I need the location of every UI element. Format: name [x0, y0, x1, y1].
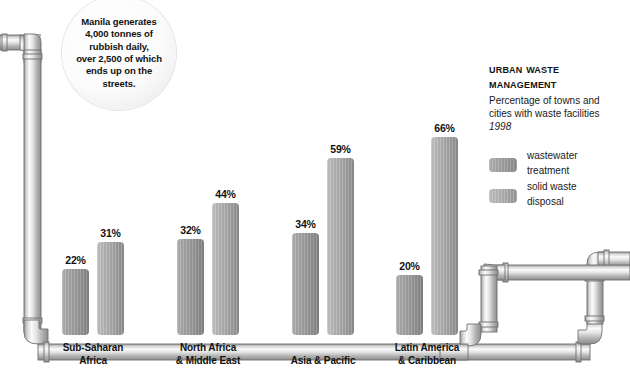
bar-fill	[292, 233, 319, 335]
legend-item-wastewater-treatment: wastewater treatment	[489, 149, 625, 178]
bar-value: 34%	[288, 218, 323, 230]
bar-fill	[62, 269, 89, 335]
legend-label: wastewater treatment	[527, 149, 578, 178]
bar-solid-waste: 66%	[431, 137, 458, 335]
legend-item-solid-waste-disposal: solid waste disposal	[489, 180, 625, 209]
legend-panel: Urban Waste Management Percentage of tow…	[489, 62, 625, 211]
bar-value: 66%	[427, 122, 462, 134]
bar-value: 32%	[173, 224, 208, 236]
group-label: Latin America & Caribbean	[352, 342, 502, 367]
bar-wastewater: 20%	[396, 275, 423, 335]
bars: 22% 31%	[62, 242, 124, 335]
bar-fill	[327, 158, 354, 335]
panel-year: 1998	[489, 120, 625, 133]
bars: 20% 66%	[396, 137, 458, 335]
legend-swatch-icon	[489, 158, 517, 172]
bar-value: 59%	[323, 143, 358, 155]
bar-solid-waste: 59%	[327, 158, 354, 335]
bar-group-latin-america-caribbean: 20% 66% Latin America & Caribbean	[396, 0, 458, 383]
callout-text: Manila generates 4,000 tonnes of rubbish…	[74, 16, 164, 90]
bar-fill	[212, 203, 239, 335]
infographic-urban-waste-management: Manila generates 4,000 tonnes of rubbish…	[0, 0, 630, 383]
panel-title-line2: Management	[489, 77, 625, 92]
panel-title: Urban Waste Management	[489, 62, 625, 91]
bar-value: 22%	[58, 254, 93, 266]
bar-fill	[97, 242, 124, 335]
bar-solid-waste: 44%	[212, 203, 239, 335]
bar-group-north-africa-middle-east: 32% 44% North Africa & Middle East	[177, 0, 239, 383]
bar-value: 20%	[392, 260, 427, 272]
bar-fill	[431, 137, 458, 335]
bar-wastewater: 32%	[177, 239, 204, 335]
bar-wastewater: 22%	[62, 269, 89, 335]
legend-swatch-icon	[489, 189, 517, 203]
panel-title-line1: Urban Waste	[489, 62, 625, 77]
bar-value: 44%	[208, 188, 243, 200]
bar-solid-waste: 31%	[97, 242, 124, 335]
legend-label: solid waste disposal	[527, 180, 576, 209]
panel-subtitle: Percentage of towns and cities with wast…	[489, 94, 625, 120]
bar-fill	[396, 275, 423, 335]
bars: 32% 44%	[177, 203, 239, 335]
callout-bubble: Manila generates 4,000 tonnes of rubbish…	[62, 0, 176, 110]
bars: 34% 59%	[292, 158, 354, 335]
legend: wastewater treatment solid waste disposa…	[489, 149, 625, 209]
bar-wastewater: 34%	[292, 233, 319, 335]
bar-value: 31%	[93, 227, 128, 239]
bar-group-asia-pacific: 34% 59% Asia & Pacific	[292, 0, 354, 383]
bar-fill	[177, 239, 204, 335]
